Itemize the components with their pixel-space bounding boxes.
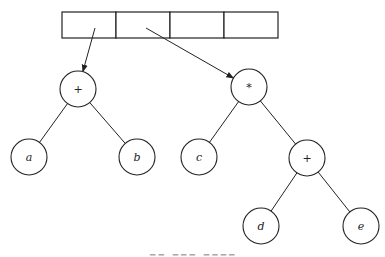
pointer-array <box>62 12 278 38</box>
tree-node-e: e <box>343 208 379 244</box>
svg-text:*: * <box>246 81 252 94</box>
tree-node-plus2: + <box>289 140 325 176</box>
edge-plus1-b <box>90 103 125 144</box>
array-cell-0 <box>62 12 116 38</box>
tree-node-times: * <box>231 69 267 105</box>
edge-plus2-e <box>318 172 350 212</box>
tree-node-a: a <box>11 139 47 175</box>
edge-times-plus2 <box>260 101 295 144</box>
array-cell-3 <box>224 12 278 38</box>
tree-node-c: c <box>181 139 217 175</box>
svg-text:a: a <box>26 151 33 164</box>
edge-times-c <box>209 102 238 143</box>
array-cell-1 <box>116 12 170 38</box>
svg-text:e: e <box>358 220 365 233</box>
expression-tree-diagram: +ab*c+de <box>0 0 385 257</box>
tree-nodes: +ab*c+de <box>11 69 379 244</box>
svg-text:c: c <box>196 151 202 164</box>
svg-text:+: + <box>302 152 311 165</box>
array-cell-2 <box>170 12 224 38</box>
edge-plus2-d <box>271 173 297 211</box>
figure-caption-partial: ━━ ━━━ ━━━━ <box>150 250 238 257</box>
svg-text:d: d <box>257 220 264 233</box>
edge-plus1-a <box>40 104 68 143</box>
tree-node-plus1: + <box>60 71 96 107</box>
tree-node-b: b <box>119 139 155 175</box>
svg-text:b: b <box>133 151 140 164</box>
svg-text:+: + <box>73 83 82 96</box>
tree-node-d: d <box>243 208 279 244</box>
